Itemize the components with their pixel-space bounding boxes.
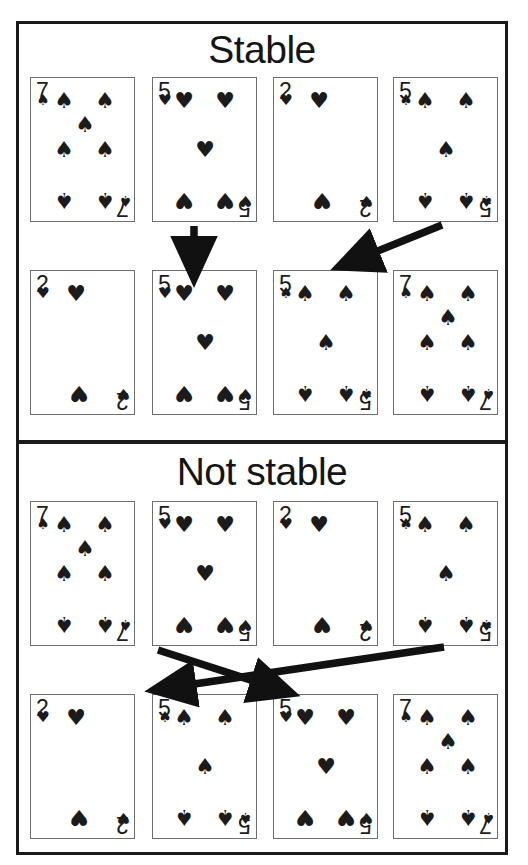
card-pip-heart: ♥ <box>359 193 374 208</box>
card-pip-heart: ♥ <box>68 382 90 404</box>
card-pip-heart: ♥ <box>158 93 173 108</box>
card-pip-spade: ♠ <box>455 514 477 536</box>
card-pip-heart: ♥ <box>68 806 90 828</box>
card-pip-heart: ♥ <box>194 563 216 585</box>
card-pip-spade: ♠ <box>481 810 496 825</box>
card-pip-heart: ♥ <box>335 806 357 828</box>
card-pip-spade: ♠ <box>158 710 173 725</box>
stable-bottom-row: 22♥♥♥♥55♥♥♥♥♥♥♥55♠♠♠♠♠♠♠77♠♠♠♠♠♠♠♠♠ <box>30 270 505 416</box>
playing-card: 55♥♥♥♥♥♥♥ <box>273 694 378 839</box>
arrow-not-stable-cross-left <box>174 647 444 687</box>
card-pip-spade: ♠ <box>457 382 479 404</box>
playing-card: 55♥♥♥♥♥♥♥ <box>152 270 257 415</box>
card-pip-spade: ♠ <box>194 756 216 778</box>
card-pip-heart: ♥ <box>238 193 253 208</box>
card-pip-spade: ♠ <box>118 617 133 632</box>
card-pip-spade: ♠ <box>435 563 457 585</box>
card-pip-spade: ♠ <box>214 806 236 828</box>
card-pip-spade: ♠ <box>457 806 479 828</box>
card-pip-spade: ♠ <box>399 286 414 301</box>
card-pip-spade: ♠ <box>53 514 75 536</box>
card-pip-spade: ♠ <box>455 613 477 635</box>
arrow-not-stable-cross-right <box>158 650 272 687</box>
playing-card: 55♥♥♥♥♥♥♥ <box>152 77 257 222</box>
card-pip-spade: ♠ <box>457 756 479 778</box>
card-pip-spade: ♠ <box>53 189 75 211</box>
card-pip-spade: ♠ <box>74 114 96 136</box>
card-pip-heart: ♥ <box>238 386 253 401</box>
not-stable-bottom-row: 22♥♥♥♥55♠♠♠♠♠♠♠55♥♥♥♥♥♥♥77♠♠♠♠♠♠♠♠♠ <box>30 694 505 840</box>
card-pip-spade: ♠ <box>238 810 253 825</box>
card-pip-heart: ♥ <box>173 382 195 404</box>
card-pip-heart: ♥ <box>116 386 131 401</box>
card-pip-spade: ♠ <box>94 90 116 112</box>
card-pip-spade: ♠ <box>455 90 477 112</box>
card-pip-spade: ♠ <box>399 93 414 108</box>
card-pip-spade: ♠ <box>416 756 438 778</box>
card-pip-spade: ♠ <box>457 283 479 305</box>
card-pip-spade: ♠ <box>94 613 116 635</box>
card-pip-spade: ♠ <box>294 283 316 305</box>
playing-card: 77♠♠♠♠♠♠♠♠♠ <box>30 501 135 646</box>
playing-card: 22♥♥♥♥ <box>273 501 378 646</box>
card-pip-spade: ♠ <box>53 90 75 112</box>
card-pip-spade: ♠ <box>437 731 459 753</box>
card-pip-spade: ♠ <box>36 93 51 108</box>
card-pip-heart: ♥ <box>359 810 374 825</box>
card-pip-spade: ♠ <box>416 806 438 828</box>
card-pip-heart: ♥ <box>279 710 294 725</box>
card-pip-spade: ♠ <box>479 617 494 632</box>
playing-card: 22♥♥♥♥ <box>30 270 135 415</box>
card-pip-heart: ♥ <box>173 613 195 635</box>
card-pip-heart: ♥ <box>158 286 173 301</box>
panel-title-not-stable: Not stable <box>19 450 505 494</box>
card-pip-heart: ♥ <box>214 90 236 112</box>
card-pip-heart: ♥ <box>214 189 236 211</box>
card-pip-heart: ♥ <box>194 139 216 161</box>
card-pip-heart: ♥ <box>173 514 195 536</box>
card-pip-spade: ♠ <box>335 382 357 404</box>
card-pip-heart: ♥ <box>308 514 330 536</box>
panel-stable: Stable 77♠♠♠♠♠♠♠♠♠55♥♥♥♥♥♥♥22♥♥♥♥55♠♠♠♠♠… <box>19 24 505 440</box>
card-pip-spade: ♠ <box>416 382 438 404</box>
card-pip-heart: ♥ <box>308 90 330 112</box>
card-pip-spade: ♠ <box>455 189 477 211</box>
card-pip-spade: ♠ <box>294 382 316 404</box>
card-pip-spade: ♠ <box>94 514 116 536</box>
card-pip-spade: ♠ <box>414 514 436 536</box>
card-pip-heart: ♥ <box>279 93 294 108</box>
card-pip-heart: ♥ <box>65 707 87 729</box>
card-pip-heart: ♥ <box>173 189 195 211</box>
card-pip-heart: ♥ <box>238 617 253 632</box>
card-pip-heart: ♥ <box>36 710 51 725</box>
card-pip-spade: ♠ <box>53 139 75 161</box>
card-pip-spade: ♠ <box>214 707 236 729</box>
card-pip-spade: ♠ <box>399 710 414 725</box>
card-pip-heart: ♥ <box>173 283 195 305</box>
card-pip-spade: ♠ <box>435 139 457 161</box>
card-pip-spade: ♠ <box>74 538 96 560</box>
card-pip-heart: ♥ <box>214 514 236 536</box>
card-pip-spade: ♠ <box>173 806 195 828</box>
playing-card: 77♠♠♠♠♠♠♠♠♠ <box>30 77 135 222</box>
playing-card: 77♠♠♠♠♠♠♠♠♠ <box>393 270 498 415</box>
card-pip-heart: ♥ <box>335 707 357 729</box>
card-pip-heart: ♥ <box>359 617 374 632</box>
card-pip-spade: ♠ <box>279 286 294 301</box>
card-pip-heart: ♥ <box>311 189 333 211</box>
card-pip-spade: ♠ <box>416 707 438 729</box>
playing-card: 77♠♠♠♠♠♠♠♠♠ <box>393 694 498 839</box>
stable-top-row: 77♠♠♠♠♠♠♠♠♠55♥♥♥♥♥♥♥22♥♥♥♥55♠♠♠♠♠♠♠ <box>30 77 505 223</box>
playing-card: 55♠♠♠♠♠♠♠ <box>273 270 378 415</box>
card-pip-heart: ♥ <box>194 332 216 354</box>
figure-root: Stable 77♠♠♠♠♠♠♠♠♠55♥♥♥♥♥♥♥22♥♥♥♥55♠♠♠♠♠… <box>0 0 528 865</box>
playing-card: 55♠♠♠♠♠♠♠ <box>393 501 498 646</box>
playing-card: 22♥♥♥♥ <box>30 694 135 839</box>
card-pip-spade: ♠ <box>94 139 116 161</box>
card-pip-spade: ♠ <box>94 563 116 585</box>
card-pip-spade: ♠ <box>414 90 436 112</box>
card-pip-spade: ♠ <box>414 189 436 211</box>
card-pip-spade: ♠ <box>479 193 494 208</box>
card-pip-spade: ♠ <box>94 189 116 211</box>
card-pip-heart: ♥ <box>214 382 236 404</box>
